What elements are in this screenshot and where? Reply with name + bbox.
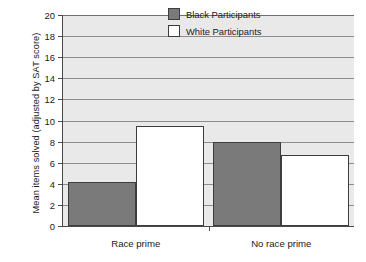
legend-swatch-icon-black-participants [168, 8, 180, 20]
legend-label-white-participants: White Participants [186, 26, 262, 37]
plot-area: 02468101214161820Race primeNo race prime [62, 15, 354, 227]
legend-label-black-participants: Black Participants [186, 9, 261, 20]
y-axis-tick-label: 0 [50, 221, 55, 232]
y-axis-tick [58, 163, 63, 164]
y-axis-tick [58, 205, 63, 206]
y-axis-tick-label: 20 [45, 10, 55, 21]
y-axis-tick-label: 6 [50, 157, 55, 168]
y-axis-tick-label: 8 [50, 136, 55, 147]
y-axis-tick [58, 15, 63, 16]
y-axis-title: Mean items solved (adjusted by SAT score… [31, 23, 41, 223]
chart-legend: Black Participants White Participants [168, 7, 262, 38]
y-axis-tick-label: 2 [50, 199, 55, 210]
bar-chart-figure: Mean items solved (adjusted by SAT score… [0, 0, 366, 262]
gridline [63, 78, 354, 79]
y-axis-tick-label: 4 [50, 178, 55, 189]
y-axis-tick-label: 12 [45, 94, 55, 105]
x-axis-tick [209, 226, 210, 231]
gridline [63, 57, 354, 58]
bar-white-participants-group-1 [136, 126, 204, 226]
y-axis-tick [58, 226, 63, 227]
y-axis-tick [58, 142, 63, 143]
bar-white-participants-group-2 [281, 155, 349, 226]
y-axis-tick-label: 14 [45, 73, 55, 84]
gridline [63, 121, 354, 122]
gridline [63, 142, 354, 143]
y-axis-tick [58, 78, 63, 79]
y-axis-tick-label: 18 [45, 31, 55, 42]
x-axis-group-label: No race prime [251, 238, 311, 249]
legend-item-white-participants: White Participants [168, 24, 262, 38]
gridline [63, 99, 354, 100]
y-axis-tick [58, 121, 63, 122]
legend-swatch-icon-white-participants [168, 25, 180, 37]
bar-black-participants-group-2 [213, 142, 281, 226]
y-axis-tick [58, 99, 63, 100]
y-axis-tick-label: 10 [45, 115, 55, 126]
legend-item-black-participants: Black Participants [168, 7, 262, 21]
x-axis-group-label: Race prime [111, 238, 160, 249]
y-axis-tick [58, 36, 63, 37]
bar-black-participants-group-1 [68, 182, 136, 226]
y-axis-tick-label: 16 [45, 52, 55, 63]
y-axis-tick [58, 184, 63, 185]
y-axis-tick [58, 57, 63, 58]
